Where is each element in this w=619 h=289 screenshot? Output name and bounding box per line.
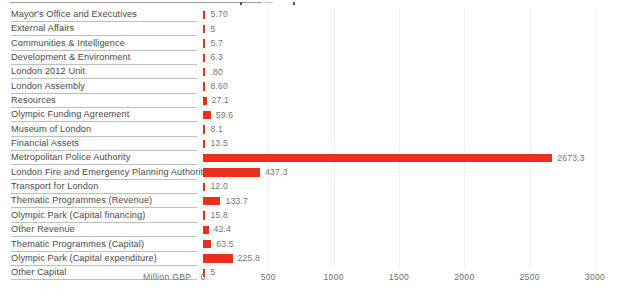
- bar: [203, 125, 205, 133]
- bar: [203, 226, 209, 234]
- bar: [203, 240, 211, 248]
- category-label: London 2012 Unit: [11, 65, 197, 79]
- bar: [203, 168, 260, 176]
- category-label: London Assembly: [11, 80, 197, 94]
- bar-row: Olympic Park (Capital financing)15.8: [0, 209, 619, 223]
- bar: [203, 140, 205, 148]
- category-label: Museum of London: [11, 123, 197, 137]
- bar: [203, 211, 205, 219]
- bar-row: Olympic Funding Agreement59.6: [0, 108, 619, 122]
- bar-value-label: 12.0: [210, 181, 228, 191]
- x-axis-tick-label: 1000: [323, 272, 343, 282]
- bar-row: Thematic Programmes (Revenue)133.7: [0, 194, 619, 208]
- x-axis-tick-label: 0: [200, 272, 205, 282]
- bar: [203, 111, 211, 119]
- bar-value-label: .80: [210, 67, 223, 77]
- bar-row: External Affairs5: [0, 22, 619, 36]
- bar: [203, 197, 220, 205]
- category-label: Thematic Programmes (Capital): [11, 238, 197, 252]
- bar-value-label: 5: [210, 24, 215, 34]
- category-label: Olympic Park (Capital financing): [11, 209, 197, 223]
- x-axis-tick-label: 500: [261, 272, 276, 282]
- bar: [203, 25, 205, 33]
- category-label: Transport for London: [11, 180, 197, 194]
- bar: [203, 254, 233, 262]
- bar-value-label: 63.5: [216, 239, 234, 249]
- bar-row: Mayor's Office and Executives5.70: [0, 8, 619, 22]
- bar: [203, 82, 205, 90]
- category-label: Development & Environment: [11, 51, 197, 65]
- bar-value-label: 437.3: [265, 167, 288, 177]
- x-axis: Million GBP 050010001500200025003000: [0, 272, 619, 288]
- bar-value-label: 225.8: [238, 253, 261, 263]
- bar: [203, 97, 207, 105]
- category-label: Resources: [11, 94, 197, 108]
- x-axis-tick-label: 2000: [454, 272, 474, 282]
- bar: [203, 39, 205, 47]
- bar-row: Transport for London12.0: [0, 180, 619, 194]
- cropped-title-rule: [10, 2, 262, 3]
- bar-value-label: 2673.3: [557, 153, 585, 163]
- bar-row: Development & Environment6.3: [0, 51, 619, 65]
- category-label: Olympic Funding Agreement: [11, 108, 197, 122]
- bar-row: Financial Assets13.5: [0, 137, 619, 151]
- category-label: Mayor's Office and Executives: [11, 8, 197, 22]
- bar-value-label: 27.1: [212, 95, 230, 105]
- bar-rows: Mayor's Office and Executives5.70Externa…: [0, 8, 619, 281]
- category-label: Communities & Intelligence: [11, 37, 197, 51]
- bar: [203, 154, 552, 162]
- bar-row: Other Revenue42.4: [0, 223, 619, 237]
- x-axis-tick-label: 3000: [585, 272, 605, 282]
- bar-value-label: 13.5: [210, 138, 228, 148]
- bar-value-label: 6.3: [210, 52, 223, 62]
- bar-chart: Mayor's Office and Executives5.70Externa…: [0, 0, 619, 289]
- x-axis-title: Million GBP: [143, 272, 191, 282]
- bar: [203, 183, 205, 191]
- bar: [203, 11, 205, 19]
- bar-value-label: 42.4: [214, 224, 232, 234]
- bar-value-label: 8.1: [210, 124, 223, 134]
- category-label: London Fire and Emergency Planning Autho…: [11, 166, 197, 180]
- bar-value-label: 59.6: [216, 110, 234, 120]
- category-label: Metropolitan Police Authority: [11, 151, 197, 165]
- category-label: Other Revenue: [11, 223, 197, 237]
- bar-value-label: 15.8: [210, 210, 228, 220]
- bar-value-label: 8.60: [210, 81, 228, 91]
- bar: [203, 54, 205, 62]
- bar-row: London Fire and Emergency Planning Autho…: [0, 166, 619, 180]
- bar-row: Metropolitan Police Authority2673.3: [0, 151, 619, 165]
- category-label: Thematic Programmes (Revenue): [11, 194, 197, 208]
- bar-row: Olympic Park (Capital expenditure)225.8: [0, 252, 619, 266]
- bar-row: London Assembly8.60: [0, 80, 619, 94]
- category-label: Financial Assets: [11, 137, 197, 151]
- bar-row: Communities & Intelligence5.7: [0, 37, 619, 51]
- x-axis-tick-label: 2500: [519, 272, 539, 282]
- bar-row: Museum of London8.1: [0, 123, 619, 137]
- bar-row: London 2012 Unit.80: [0, 65, 619, 79]
- bar-value-label: 5.70: [210, 9, 228, 19]
- x-axis-tick-label: 1500: [389, 272, 409, 282]
- bar-value-label: 5.7: [210, 38, 223, 48]
- category-label: Olympic Park (Capital expenditure): [11, 252, 197, 266]
- bar-value-label: 133.7: [225, 196, 248, 206]
- category-label: External Affairs: [11, 22, 197, 36]
- bar-row: Resources27.1: [0, 94, 619, 108]
- bar: [203, 68, 205, 76]
- bar-row: Thematic Programmes (Capital)63.5: [0, 238, 619, 252]
